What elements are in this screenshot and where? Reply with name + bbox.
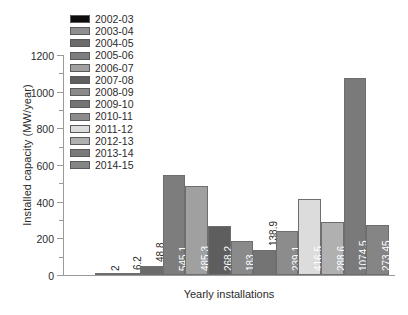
y-axis-title: Installed capacity (MW/year) (18, 25, 36, 285)
legend-label: 2002-03 (95, 14, 134, 25)
legend-item: 2007-08 (70, 74, 190, 86)
legend-item: 2008-09 (70, 86, 190, 98)
legend-swatch (70, 39, 90, 47)
legend-swatch (70, 52, 90, 60)
legend-item: 2014-15 (70, 159, 190, 171)
legend-swatch (70, 88, 90, 96)
legend-item: 2003-04 (70, 25, 190, 37)
y-tick-minor (59, 257, 63, 258)
bar (95, 273, 118, 275)
bar-value-label: 2 (111, 265, 121, 271)
y-tick-label: 200 (14, 233, 54, 245)
legend-swatch (70, 15, 90, 23)
legend-label: 2006-07 (95, 63, 134, 74)
legend-item: 2005-06 (70, 50, 190, 62)
y-tick-label: 600 (14, 160, 54, 172)
legend-item: 2002-03 (70, 13, 190, 25)
legend-swatch (70, 113, 90, 121)
legend-label: 2008-09 (95, 87, 134, 98)
legend: 2002-032003-042004-052005-062006-072007-… (70, 13, 190, 171)
y-tick-minor (59, 220, 63, 221)
legend-swatch (70, 137, 90, 145)
legend-item: 2012-13 (70, 135, 190, 147)
legend-label: 2010-11 (95, 111, 133, 122)
x-axis-title: Yearly installations (63, 288, 395, 300)
legend-swatch (70, 125, 90, 133)
legend-swatch (70, 76, 90, 84)
legend-swatch (70, 27, 90, 35)
y-tick-minor (59, 73, 63, 74)
legend-label: 2007-08 (95, 75, 134, 86)
y-tick-label: 400 (14, 197, 54, 209)
y-tick-minor (59, 183, 63, 184)
y-tick-label: 800 (14, 123, 54, 135)
legend-label: 2004-05 (95, 38, 134, 49)
y-tick-major (57, 275, 63, 276)
legend-label: 2003-04 (95, 26, 134, 37)
legend-label: 2005-06 (95, 50, 134, 61)
legend-item: 2009-10 (70, 98, 190, 110)
y-tick-major (57, 238, 63, 239)
y-tick-major (57, 55, 63, 56)
y-tick-label: 0 (14, 270, 54, 282)
bar-value-label: 273.45 (382, 240, 392, 271)
y-tick-major (57, 128, 63, 129)
y-tick-major (57, 92, 63, 93)
y-tick-label: 1200 (14, 50, 54, 62)
legend-label: 2013-14 (95, 148, 134, 159)
bar (140, 266, 163, 275)
y-tick-major (57, 202, 63, 203)
legend-swatch (70, 149, 90, 157)
legend-swatch (70, 100, 90, 108)
y-tick-label: 1000 (14, 87, 54, 99)
legend-label: 2009-10 (95, 99, 134, 110)
legend-swatch (70, 64, 90, 72)
legend-item: 2004-05 (70, 37, 190, 49)
y-tick-minor (59, 147, 63, 148)
bar (118, 273, 141, 275)
bar-chart-figure: Installed capacity (MW/year) 02004006008… (0, 0, 408, 315)
legend-label: 2012-13 (95, 136, 134, 147)
legend-item: 2006-07 (70, 62, 190, 74)
legend-item: 2010-11 (70, 111, 190, 123)
legend-swatch (70, 161, 90, 169)
x-axis-line (63, 275, 395, 276)
legend-item: 2011-12 (70, 123, 190, 135)
bar (253, 250, 276, 275)
y-tick-major (57, 165, 63, 166)
legend-label: 2014-15 (95, 160, 134, 171)
y-tick-minor (59, 110, 63, 111)
legend-label: 2011-12 (95, 124, 133, 135)
legend-item: 2013-14 (70, 147, 190, 159)
